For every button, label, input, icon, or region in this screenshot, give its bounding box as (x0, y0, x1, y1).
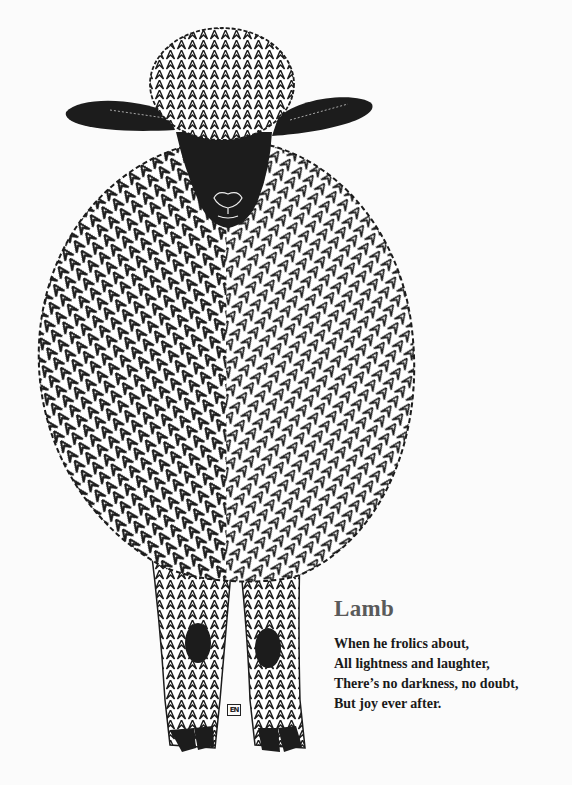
poem-title: Lamb (334, 596, 564, 622)
poem: Lamb When he frolics about, All lightnes… (334, 596, 564, 714)
poem-line-1: When he frolics about, (334, 634, 564, 654)
knee-patch-left (185, 623, 211, 663)
head-tuft (150, 28, 294, 140)
poem-line-3: There’s no darkness, no doubt, (334, 674, 564, 694)
artist-monogram: EN (227, 704, 241, 716)
poem-line-4: But joy ever after. (334, 694, 564, 714)
poem-line-2: All lightness and laughter, (334, 654, 564, 674)
hoof-right-a (258, 728, 280, 752)
knee-patch-right (255, 628, 281, 668)
